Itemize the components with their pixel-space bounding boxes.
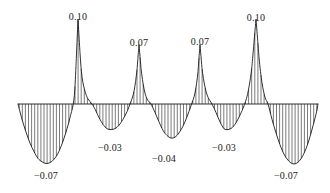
trough-label-1: −0.07 xyxy=(34,170,58,181)
trough-label-3: −0.04 xyxy=(152,153,176,164)
hatch-fill-group xyxy=(19,21,317,164)
peak-label-2: 0.07 xyxy=(130,37,148,48)
trough-label-2: −0.03 xyxy=(98,142,122,153)
peak-label-3: 0.07 xyxy=(191,36,209,47)
wavelet-plot xyxy=(0,0,330,193)
wavelet-figure: 0.100.070.070.10−0.07−0.03−0.04−0.03−0.0… xyxy=(0,0,330,193)
trough-label-5: −0.07 xyxy=(274,170,298,181)
wavelet-curve xyxy=(18,19,318,164)
peak-label-4: 0.10 xyxy=(247,12,265,23)
trough-label-4: −0.03 xyxy=(212,142,236,153)
peak-label-1: 0.10 xyxy=(69,11,87,22)
